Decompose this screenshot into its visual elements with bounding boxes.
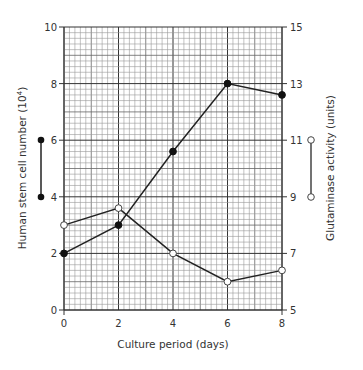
x-tick-label: 8	[279, 318, 285, 329]
open-circle-icon	[224, 278, 231, 285]
open-circle-icon	[279, 267, 286, 274]
y-tick-label: 0	[51, 305, 57, 316]
y-tick-label: 2	[51, 248, 57, 259]
filled-circle-icon	[279, 92, 286, 99]
y2-tick-label: 13	[290, 79, 303, 90]
filled-circle-icon	[115, 222, 122, 229]
dual-axis-line-chart: 024681057911131502468 Culture period (da…	[0, 0, 363, 370]
y-tick-label: 8	[51, 79, 57, 90]
y-tick-label: 4	[51, 192, 57, 203]
open-circle-icon	[115, 205, 122, 212]
filled-circle-icon	[224, 80, 231, 87]
x-tick-label: 2	[115, 318, 121, 329]
left-y-axis-title: Human stem cell number (104)	[16, 87, 28, 250]
right-legend-key	[308, 137, 315, 201]
open-circle-icon	[308, 137, 315, 144]
y2-tick-label: 7	[290, 248, 296, 259]
y2-tick-label: 5	[290, 305, 296, 316]
x-tick-label: 6	[224, 318, 230, 329]
filled-circle-icon	[170, 148, 177, 155]
y-tick-label: 10	[44, 22, 57, 33]
open-circle-icon	[170, 250, 177, 257]
open-circle-icon	[61, 222, 68, 229]
filled-circle-icon	[61, 250, 68, 257]
y-tick-label: 6	[51, 135, 57, 146]
plot-grid	[64, 27, 282, 310]
right-y-axis-title: Glutaminase activity (units)	[324, 95, 336, 241]
y2-tick-label: 15	[290, 22, 303, 33]
y2-tick-label: 9	[290, 192, 296, 203]
x-axis-title: Culture period (days)	[117, 338, 228, 350]
filled-circle-icon	[38, 137, 45, 144]
left-legend-key	[38, 137, 45, 201]
filled-circle-icon	[38, 194, 45, 201]
open-circle-icon	[308, 194, 315, 201]
x-tick-label: 0	[61, 318, 67, 329]
y2-tick-label: 11	[290, 135, 303, 146]
x-tick-label: 4	[170, 318, 176, 329]
